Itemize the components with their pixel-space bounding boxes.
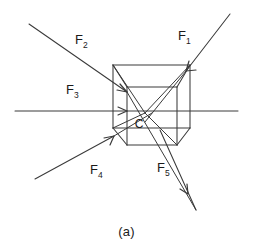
force-label-f1: F 1 (178, 28, 191, 46)
force-label-f4-subscript: 4 (98, 170, 103, 180)
force-label-f4-base: F (90, 162, 98, 177)
force-label-f2-base: F (75, 32, 83, 47)
force-label-f4: F 4 (90, 162, 103, 180)
internal-diagonal-back (113, 65, 145, 113)
force-label-f3-subscript: 3 (74, 90, 79, 100)
cube-front-face (127, 87, 177, 145)
figure-caption: (a) (0, 224, 253, 239)
force-label-f3-base: F (66, 82, 74, 97)
internal-diagonal-front (145, 65, 190, 113)
force-label-f1-base: F (178, 28, 186, 43)
force-vector-f1 (186, 14, 230, 71)
internal-diagonal-lower-right (145, 113, 177, 145)
force-label-f5-subscript: 5 (165, 168, 170, 178)
center-label: C (135, 117, 144, 131)
force-label-f1-subscript: 1 (186, 36, 191, 46)
force-vectors (15, 14, 230, 210)
physics-figure: C F 1 F 2 F 3 F 4 F 5 (0, 0, 253, 247)
f1-line (186, 14, 230, 71)
force-label-f2-subscript: 2 (83, 40, 88, 50)
figure-canvas: C F 1 F 2 F 3 F 4 F 5 (0, 0, 253, 247)
cube-back-face (113, 65, 190, 128)
internal-f1-segment (145, 71, 186, 122)
force-vector-f3 (15, 107, 127, 115)
force-label-f2: F 2 (75, 32, 88, 50)
cube-edge-connect-bottom-right (177, 128, 190, 145)
cube-edge-connect-bottom-left (113, 128, 127, 145)
force-label-f3: F 3 (66, 82, 79, 100)
center-point-group: C (135, 117, 144, 131)
force-label-f5-base: F (157, 160, 165, 175)
internal-f2-segment (127, 92, 196, 210)
